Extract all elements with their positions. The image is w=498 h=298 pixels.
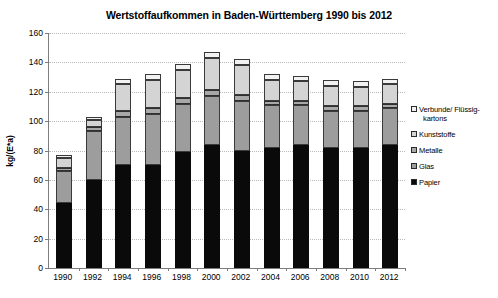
bar-segment-glas [86,131,102,179]
legend-item-papier[interactable]: Papier [411,178,497,187]
x-tick [316,268,317,271]
bar-segment-glas [145,114,161,165]
bar-segment-kunststoffe [264,80,280,101]
bar-segment-papier [293,145,309,268]
bar-2002 [234,59,250,268]
bar-1992 [86,117,102,268]
bar-2000 [204,52,220,268]
bar-2004 [264,74,280,268]
legend-label: Papier [419,178,440,187]
gridline [49,62,405,63]
legend-label: Glas [419,162,434,171]
bar-2006 [293,76,309,268]
bar-1998 [175,64,191,268]
legend-label: Kunststoffe [419,130,455,139]
legend-swatch [411,147,417,153]
bar-segment-papier [56,203,72,268]
legend-swatch [411,163,417,169]
x-tick [257,268,258,271]
bar-segment-glas [264,105,280,148]
bar-segment-metalle [175,98,191,104]
bar-segment-verbunde-flüssigkartons [56,155,72,158]
bar-segment-glas [175,104,191,152]
x-tick [79,268,80,271]
y-tick [45,33,49,34]
bar-segment-verbunde-flüssigkartons [293,76,309,82]
x-tick [346,268,347,271]
bar-segment-kunststoffe [234,65,250,94]
bar-segment-metalle [115,111,131,117]
y-tick [45,209,49,210]
y-tick-label: 140 [13,57,43,67]
bar-segment-glas [204,96,220,144]
legend-item-kunststoffe[interactable]: Kunststoffe [411,130,497,139]
legend-label-line2: kartons [419,114,480,123]
plot-area: 160140120100806040200 [48,33,405,269]
y-tick-label: 160 [13,28,43,38]
bar-segment-glas [56,171,72,203]
bar-segment-papier [115,165,131,268]
bar-segment-kunststoffe [86,120,102,127]
y-tick-label: 60 [13,175,43,185]
y-tick-label: 120 [13,87,43,97]
legend-swatch [411,131,417,137]
bar-segment-metalle [145,108,161,114]
bar-2012 [382,79,398,268]
bar-2010 [353,81,369,268]
bar-segment-metalle [293,101,309,105]
y-tick [45,151,49,152]
bar-segment-kunststoffe [56,158,72,168]
gridline [49,33,405,34]
bar-segment-papier [86,180,102,268]
y-tick [45,268,49,269]
bar-segment-kunststoffe [293,81,309,100]
bar-segment-glas [293,105,309,145]
bar-segment-papier [382,145,398,268]
bar-segment-verbunde-flüssigkartons [175,64,191,70]
legend-item-glas[interactable]: Glas [411,162,497,171]
bar-1996 [145,74,161,268]
y-tick [45,239,49,240]
x-tick [405,268,406,271]
bar-segment-metalle [382,104,398,108]
legend-item-metalle[interactable]: Metalle [411,146,497,155]
bar-segment-kunststoffe [115,84,131,110]
bar-segment-glas [234,101,250,151]
bar-segment-papier [175,152,191,268]
y-tick-label: 0 [13,263,43,273]
bar-segment-glas [382,108,398,145]
y-tick-label: 100 [13,116,43,126]
y-tick [45,121,49,122]
y-tick [45,62,49,63]
bar-segment-verbunde-flüssigkartons [323,80,339,86]
x-tick [108,268,109,271]
x-tick [286,268,287,271]
chart-figure: Wertstoffaufkommen in Baden-Württemberg … [0,0,498,298]
bar-segment-kunststoffe [382,84,398,103]
legend-label: Metalle [419,146,442,155]
bar-segment-verbunde-flüssigkartons [382,79,398,85]
legend-item-verbunde-flüssig[interactable]: Verbunde/ Flüssig-kartons [411,105,497,123]
x-tick [138,268,139,271]
legend-label: Verbunde/ Flüssig-kartons [419,105,480,123]
bar-segment-papier [264,148,280,268]
bar-segment-verbunde-flüssigkartons [115,79,131,85]
x-tick [375,268,376,271]
bar-segment-metalle [323,106,339,110]
bar-segment-verbunde-flüssigkartons [86,117,102,120]
bar-segment-verbunde-flüssigkartons [204,52,220,58]
bar-segment-metalle [86,127,102,131]
x-tick [197,268,198,271]
bar-2008 [323,80,339,268]
y-tick [45,180,49,181]
bar-segment-kunststoffe [353,87,369,106]
bar-segment-metalle [234,95,250,101]
bar-segment-papier [323,148,339,268]
x-tick [227,268,228,271]
chart-title: Wertstoffaufkommen in Baden-Württemberg … [0,9,498,21]
bar-segment-metalle [264,101,280,105]
bar-segment-glas [353,111,369,148]
bar-segment-kunststoffe [323,86,339,107]
bar-segment-verbunde-flüssigkartons [353,81,369,87]
bar-segment-kunststoffe [145,80,161,108]
